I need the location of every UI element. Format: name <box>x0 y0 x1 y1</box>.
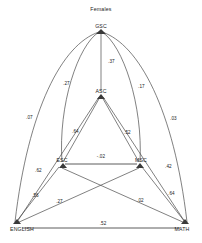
edge-value-english-math: .52 <box>100 221 107 226</box>
edge-value-msc-math: .64 <box>168 191 175 196</box>
node-label-asc: ASC <box>95 88 106 94</box>
edge-asc-esc <box>63 97 100 162</box>
edge-value-gsc-english: .07 <box>26 115 33 120</box>
arrowhead-asc <box>97 94 105 99</box>
edge-value-gsc-msc: .17 <box>138 84 145 89</box>
edge-value-asc-esc: .64 <box>72 129 79 134</box>
edge-value-gsc-asc: .37 <box>108 59 115 64</box>
path-diagram-figure: Females GSC ASC ESC MSC ENGLISH MATH .37… <box>0 0 202 243</box>
node-label-esc: ESC <box>56 157 67 163</box>
edge-value-esc-math: .02 <box>137 198 144 203</box>
path-diagram-canvas: Females GSC ASC ESC MSC ENGLISH MATH .37… <box>0 0 202 243</box>
arrowhead-msc <box>136 163 144 168</box>
figure-title: Females <box>90 6 111 12</box>
edge-value-esc-english: .56 <box>32 193 39 198</box>
edge-gsc-msc <box>102 32 140 162</box>
edge-value-gsc-esc: .27 <box>63 81 70 86</box>
edge-gsc-english <box>15 32 99 222</box>
node-label-gsc: GSC <box>95 23 107 29</box>
edge-esc-math <box>62 168 185 223</box>
edge-asc-msc <box>102 97 139 162</box>
edge-gsc-esc <box>61 32 99 162</box>
edge-value-asc-msc: .52 <box>124 130 131 135</box>
node-label-msc: MSC <box>135 157 147 163</box>
node-label-math: MATH <box>175 226 190 232</box>
edge-value-asc-english: .62 <box>35 168 42 173</box>
edge-value-asc-math: .42 <box>165 164 172 169</box>
edge-value-esc-msc: -.02 <box>97 154 106 159</box>
arrowhead-gsc <box>96 29 106 34</box>
edge-value-msc-english: .27 <box>56 199 63 204</box>
node-label-english: ENGLISH <box>10 226 34 232</box>
edge-value-gsc-math: .03 <box>170 116 177 121</box>
